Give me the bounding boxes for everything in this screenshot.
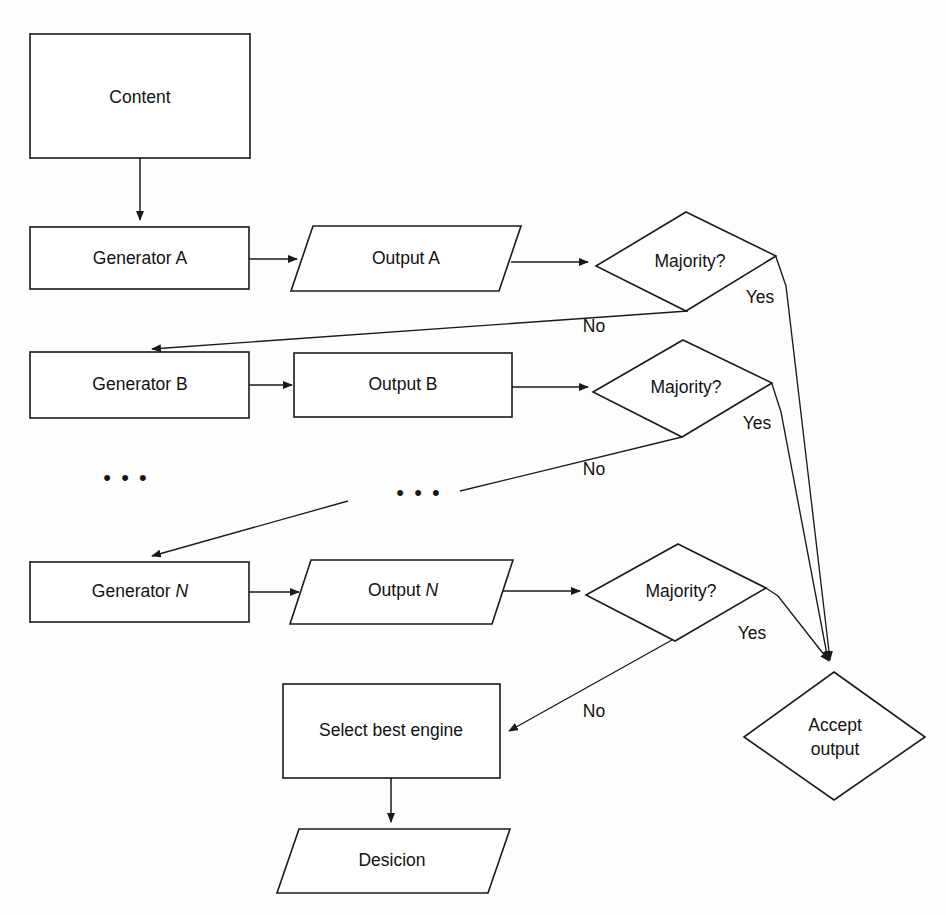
node-majority-b-label: Majority? (651, 377, 722, 397)
edge-majority-b-no-to-generator-n-seg1 (460, 437, 682, 491)
node-generator-n-label-italic: N (176, 581, 189, 601)
edge-label-no-a: No (583, 316, 605, 336)
node-content-label: Content (109, 87, 170, 107)
edge-label-yes-b: Yes (743, 413, 772, 433)
node-generator-a-label: Generator A (93, 248, 188, 268)
edge-majority-n-yes-to-accept (766, 588, 829, 661)
edge-majority-b-no-to-generator-n-seg2 (152, 501, 348, 556)
node-output-a-label: Output A (372, 248, 440, 268)
edge-majority-b-yes-to-accept (772, 384, 828, 660)
ellipsis-middle: • • • (396, 480, 441, 505)
node-generator-n-label: Generator N (92, 581, 189, 601)
edge-label-yes-a: Yes (746, 287, 775, 307)
node-generator-n-label-prefix: Generator (92, 581, 176, 601)
flowchart-svg: Content Generator A Output A Majority? G… (0, 0, 946, 915)
node-output-b-label: Output B (368, 374, 437, 394)
ellipsis-left: • • • (103, 465, 148, 490)
node-desicion-label: Desicion (358, 850, 425, 870)
edge-label-no-n: No (583, 701, 605, 721)
node-output-n-label-prefix: Output (368, 580, 425, 600)
edge-majority-a-no-to-generator-b (152, 311, 688, 349)
node-accept-output-label-line1: Accept (808, 715, 862, 735)
node-majority-a-label: Majority? (655, 251, 726, 271)
node-majority-n-label: Majority? (646, 581, 717, 601)
edge-majority-a-yes-to-accept (776, 257, 830, 660)
edge-label-yes-n: Yes (738, 623, 767, 643)
node-accept-output-label-line2: output (811, 739, 860, 759)
node-accept-output[interactable] (744, 672, 925, 800)
node-generator-b-label: Generator B (92, 374, 187, 394)
node-output-n-label-italic: N (425, 580, 438, 600)
edge-label-no-b: No (583, 459, 605, 479)
flowchart-canvas: Content Generator A Output A Majority? G… (0, 0, 946, 915)
node-output-n-label: Output N (368, 580, 438, 600)
node-select-best-engine-label: Select best engine (319, 720, 463, 740)
